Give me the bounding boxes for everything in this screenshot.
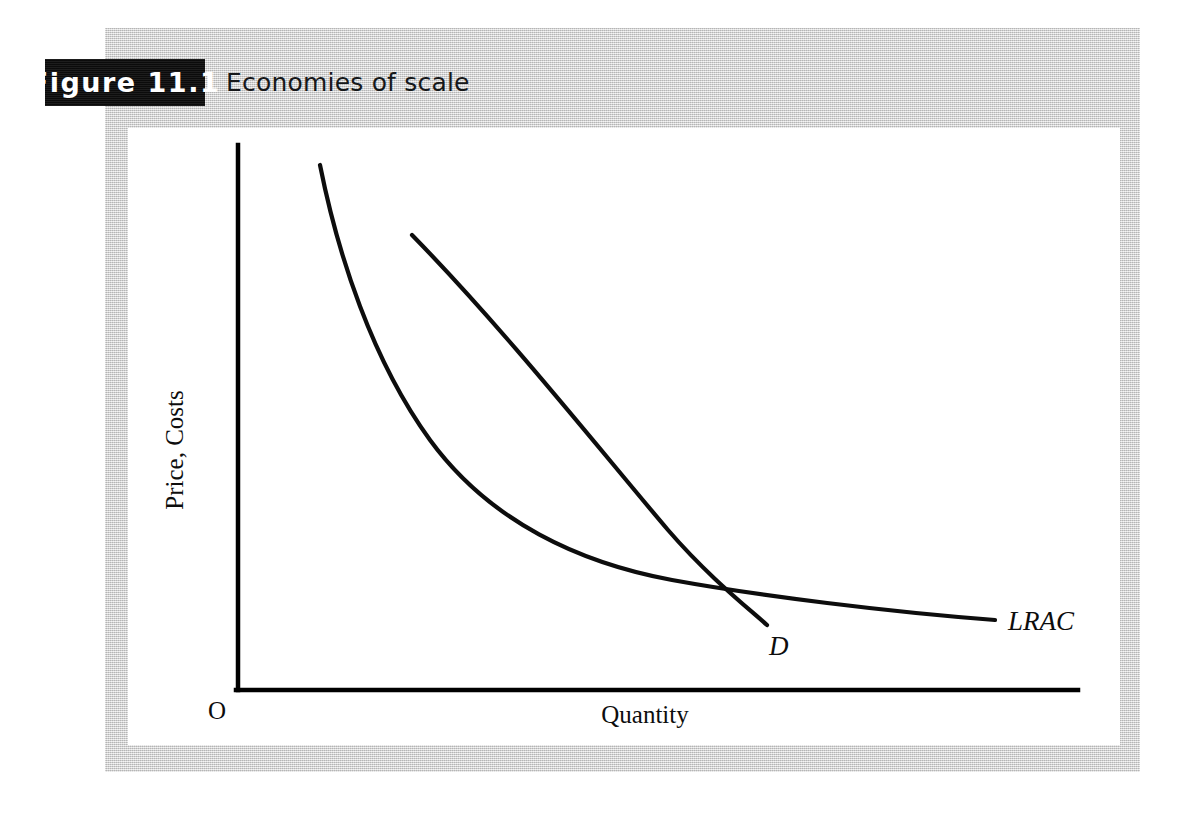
lrac-curve	[320, 165, 995, 620]
demand-label: D	[768, 631, 789, 661]
y-axis-label: Price, Costs	[161, 390, 188, 509]
figure-root: Figure 11.1 Economies of scale LRAC D O …	[0, 0, 1189, 827]
x-axis-label: Quantity	[601, 701, 689, 728]
lrac-label: LRAC	[1007, 606, 1075, 636]
chart-canvas: LRAC D O Quantity Price, Costs	[0, 0, 1189, 827]
demand-curve	[412, 235, 767, 625]
origin-label: O	[208, 697, 226, 724]
